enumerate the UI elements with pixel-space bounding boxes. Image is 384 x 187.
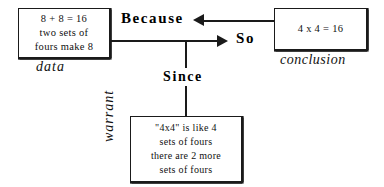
warrant-node-line: "4x4" is like 4	[131, 121, 241, 135]
data-node-line: fours make 8	[19, 40, 109, 54]
warrant-node-text: "4x4" is like 4 sets of fours there are …	[131, 121, 241, 177]
conclusion-node-line: 4 x 4 = 16	[275, 22, 366, 36]
conclusion-node-text: 4 x 4 = 16	[275, 22, 366, 36]
so-connector-line	[110, 40, 219, 42]
connector-label-so: So	[234, 30, 257, 47]
data-node-line: 8 + 8 = 16	[19, 12, 109, 26]
right-arrow-icon	[217, 35, 228, 47]
because-connector-line	[203, 20, 275, 22]
warrant-node-line: sets of fours	[131, 135, 241, 149]
warrant-node-box: "4x4" is like 4 sets of fours there are …	[130, 116, 242, 182]
connector-label-because: Because	[120, 10, 185, 27]
conclusion-node-box: 4 x 4 = 16	[274, 8, 367, 50]
diagram-canvas: Because So Since 8 + 8 = 16 two sets of …	[0, 0, 384, 187]
left-arrow-icon	[193, 14, 204, 26]
warrant-node-line: sets of fours	[131, 163, 241, 177]
connector-label-since: Since	[161, 68, 205, 86]
warrant-node-line: there are 2 more	[131, 149, 241, 163]
data-node-line: two sets of	[19, 26, 109, 40]
warrant-role-caption: warrant	[101, 80, 117, 142]
data-role-caption: data	[36, 59, 65, 75]
data-node-text: 8 + 8 = 16 two sets of fours make 8	[19, 12, 109, 54]
data-node-box: 8 + 8 = 16 two sets of fours make 8	[18, 8, 110, 58]
conclusion-role-caption: conclusion	[280, 52, 346, 68]
